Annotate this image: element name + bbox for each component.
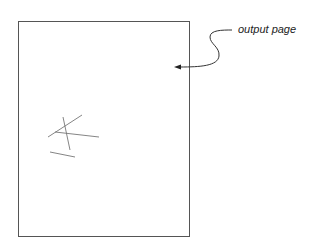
arrowhead-icon xyxy=(174,65,181,70)
output-page-rect xyxy=(19,22,190,237)
pointer-arrow xyxy=(180,30,232,67)
diagram-canvas xyxy=(0,0,316,250)
output-page-label: output page xyxy=(238,23,296,35)
scribble-marks xyxy=(48,115,99,157)
